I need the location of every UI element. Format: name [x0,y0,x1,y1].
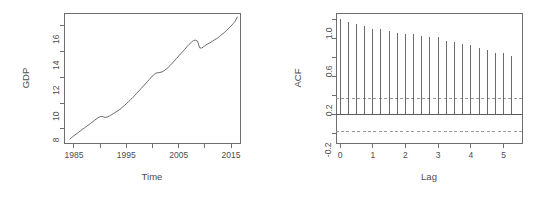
acf-y-axis-title: ACF [293,69,303,88]
acf-y-tick-label-1.0: 1.0 [324,28,333,40]
gdp-x-tick-label-2005: 2005 [169,151,188,160]
gdp-y-axis-title: GDP [21,68,31,89]
acf-y-tick-label-0.6: 0.6 [324,66,333,78]
acf-x-tick-label-4: 4 [468,151,473,160]
acf-x-tick-label-0: 0 [338,151,343,160]
acf-y-tick-label-0.2: 0.2 [324,104,333,116]
gdp-x-tick-label-1985: 1985 [65,151,84,160]
acf-x-tick-label-3: 3 [436,151,441,160]
gdp-x-tick-label-1995: 1995 [117,151,136,160]
gdp-x-tick-label-2015: 2015 [222,151,241,160]
acf-y-tick-label--0.2: -0.2 [324,142,333,157]
gdp-y-tick-label-10: 10 [52,112,61,121]
gdp-y-tick-label-12: 12 [52,86,61,95]
acf-x-tick-label-2: 2 [403,151,408,160]
acf-x-axis-title: Lag [421,172,437,182]
gdp-y-tick-label-8: 8 [52,137,61,142]
gdp-time-series-panel: GDP Time 8101214161985199520052015 [0,0,275,197]
acf-plot-canvas [275,0,549,197]
gdp-y-tick-label-14: 14 [52,60,61,69]
gdp-y-tick-label-16: 16 [52,34,61,43]
gdp-plot-canvas [0,0,275,197]
r-plot-figure: GDP Time 8101214161985199520052015 ACF L… [0,0,549,197]
gdp-x-axis-title: Time [142,172,163,182]
acf-correlogram-panel: ACF Lag -0.20.20.61.0012345 [275,0,549,197]
acf-x-tick-label-1: 1 [370,151,375,160]
acf-x-tick-label-5: 5 [501,151,506,160]
